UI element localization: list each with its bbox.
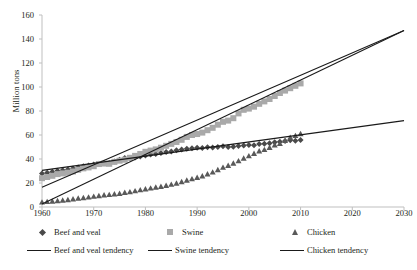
legend-label: Swine tendency [175,245,229,255]
legend-line-icon [148,250,172,251]
x-tick-label: 1970 [74,209,114,218]
legend-item-marker: Beef and veal [40,226,101,237]
legend-label: Swine [182,227,203,237]
tendency-beef-and-veal-tendency [42,121,404,171]
y-tick-label: 80 [8,107,34,116]
x-tick-label: 1960 [22,209,62,218]
chart-legend: Beef and vealSwineChickenBeef and veal t… [0,226,412,270]
legend-item-line: Swine tendency [148,244,229,255]
x-tick-label: 2030 [384,209,417,218]
y-tick-label: 40 [8,155,34,164]
y-tick-label: 140 [8,35,34,44]
x-tick-label: 1990 [177,209,217,218]
legend-label: Beef and veal [54,227,101,237]
tendency-chicken-tendency [42,31,404,204]
legend-item-marker: Chicken [292,226,335,237]
legend-marker-icon [39,229,46,236]
x-tick-label: 2010 [281,209,321,218]
y-tick-label: 160 [8,11,34,20]
legend-line-icon [27,250,51,251]
y-tick-label: 120 [8,59,34,68]
legend-marker-icon [167,229,173,235]
legend-marker-icon [292,229,298,235]
legend-label: Chicken [307,227,335,237]
legend-label: Chicken tendency [307,245,368,255]
y-tick-label: 20 [8,179,34,188]
y-tick-label: 60 [8,131,34,140]
x-tick-label: 2020 [332,209,372,218]
x-tick-label: 2000 [229,209,269,218]
legend-item-line: Chicken tendency [280,244,368,255]
legend-line-icon [280,250,304,251]
x-tick-label: 1980 [125,209,165,218]
y-tick-label: 100 [8,83,34,92]
legend-item-marker: Swine [167,226,203,237]
legend-item-line: Beef and veal tendency [27,244,134,255]
tendency-swine-tendency [42,31,404,188]
legend-label: Beef and veal tendency [54,245,134,255]
